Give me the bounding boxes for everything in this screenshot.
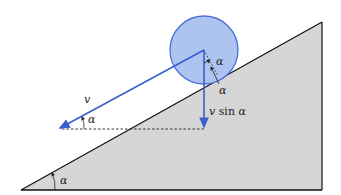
label-vertical-component: v sin α (209, 105, 246, 118)
label-vsin-alpha: α (238, 105, 246, 118)
label-angle-incline: α (60, 174, 68, 187)
label-angle-ball-lower: α (219, 84, 227, 97)
label-angle-velocity: α (88, 113, 96, 126)
label-vsin-sin: sin (215, 105, 238, 118)
label-angle-ball-upper: α (216, 55, 224, 68)
label-velocity-v: v (84, 93, 91, 106)
incline-diagram: v α α α v sin α α (0, 0, 341, 195)
angle-arc-velocity (82, 117, 84, 129)
